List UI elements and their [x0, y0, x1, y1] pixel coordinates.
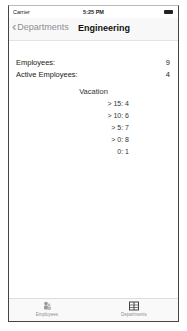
book-icon: [129, 301, 139, 311]
vacation-line: > 10: 6: [29, 112, 129, 119]
stat-label: Active Employees:: [16, 70, 78, 79]
chevron-left-icon: ‹: [12, 22, 16, 32]
vacation-heading: Vacation: [9, 87, 178, 96]
stat-label: Employees:: [16, 58, 55, 67]
stat-value: 9: [166, 58, 170, 67]
status-bar: Carrier 5:25 PM: [9, 6, 178, 18]
page-title: Engineering: [78, 23, 130, 33]
tab-bar: Employees Departments: [9, 298, 178, 321]
tab-employees[interactable]: Employees: [17, 301, 77, 317]
vacation-line: 0: 1: [29, 148, 129, 155]
vacation-line: > 15: 4: [29, 100, 129, 107]
back-button-label: Departments: [17, 22, 69, 32]
vacation-line: > 5: 7: [29, 124, 129, 131]
tab-label: Employees: [36, 312, 58, 317]
phone-screen: Carrier 5:25 PM ‹ Departments Engineerin…: [8, 5, 179, 322]
navigation-bar: ‹ Departments Engineering: [9, 18, 178, 41]
stat-value: 4: [166, 70, 170, 79]
stat-row-employees: Employees: 9: [16, 58, 170, 67]
back-button[interactable]: ‹ Departments: [12, 22, 69, 32]
battery-icon: [164, 10, 173, 14]
vacation-line: > 0: 8: [29, 136, 129, 143]
tab-label: Departments: [121, 312, 147, 317]
people-icon: [42, 301, 52, 311]
tab-departments[interactable]: Departments: [104, 301, 164, 317]
stat-row-active-employees: Active Employees: 4: [16, 70, 170, 79]
clock-label: 5:25 PM: [9, 9, 178, 15]
